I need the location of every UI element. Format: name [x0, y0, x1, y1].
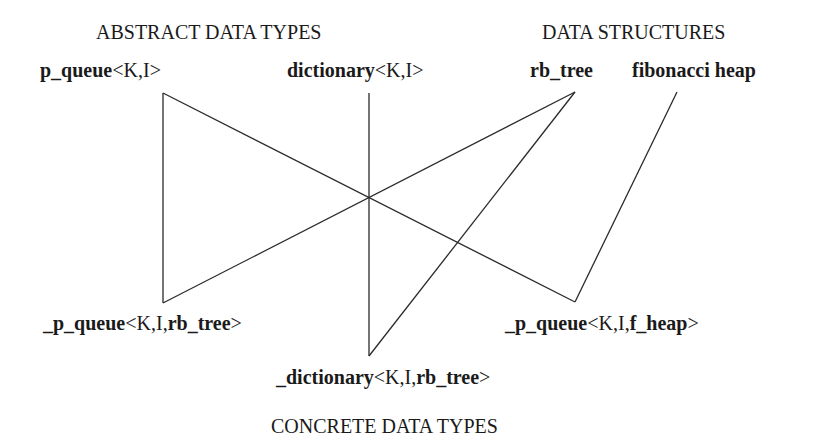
- node-dictionary-rb-tree-prefix: _: [276, 366, 286, 388]
- node-fibonacci-heap: fibonacci heap: [632, 60, 756, 80]
- node-p-queue-f-heap: _p_queue<K,I,f_heap>: [505, 313, 699, 333]
- node-p-queue-f-heap-prefix: _: [505, 312, 515, 334]
- node-p-queue-rb-tree: _p_queue<K,I,rb_tree>: [43, 313, 242, 333]
- node-p-queue-f-heap-name: p_queue: [515, 312, 587, 334]
- heading-data-structures: DATA STRUCTURES: [542, 22, 725, 42]
- node-p-queue-params: <K,I>: [112, 59, 161, 81]
- node-p-queue-rb-tree-name: p_queue: [53, 312, 125, 334]
- node-p-queue-f-heap-impl: f_heap: [630, 312, 688, 334]
- heading-concrete-data-types: CONCRETE DATA TYPES: [271, 416, 498, 436]
- node-dictionary-rb-tree-impl: rb_tree: [416, 366, 479, 388]
- node-dictionary-rb-tree-params: <K,I,: [374, 366, 416, 388]
- node-p-queue-f-heap-params: <K,I,: [587, 312, 629, 334]
- node-rb-tree: rb_tree: [530, 60, 593, 80]
- node-p-queue-f-heap-close: >: [687, 312, 698, 334]
- node-p-queue-name: p_queue: [40, 59, 112, 81]
- node-p-queue-rb-tree-close: >: [231, 312, 242, 334]
- node-dictionary-rb-tree: _dictionary<K,I,rb_tree>: [276, 367, 490, 387]
- node-p-queue: p_queue<K,I>: [40, 60, 161, 80]
- node-p-queue-rb-tree-params: <K,I,: [125, 312, 167, 334]
- data-types-diagram: ABSTRACT DATA TYPES DATA STRUCTURES CONC…: [0, 0, 833, 442]
- node-p-queue-rb-tree-prefix: _: [43, 312, 53, 334]
- heading-abstract-data-types: ABSTRACT DATA TYPES: [96, 22, 322, 42]
- node-dictionary-rb-tree-name: dictionary: [286, 366, 374, 388]
- node-p-queue-rb-tree-impl: rb_tree: [168, 312, 231, 334]
- node-dictionary-name: dictionary: [287, 59, 375, 81]
- node-dictionary-params: <K,I>: [375, 59, 424, 81]
- node-dictionary-rb-tree-close: >: [479, 366, 490, 388]
- edge-fibheap-to-pqueue-fheap: [575, 92, 677, 302]
- node-dictionary: dictionary<K,I>: [287, 60, 423, 80]
